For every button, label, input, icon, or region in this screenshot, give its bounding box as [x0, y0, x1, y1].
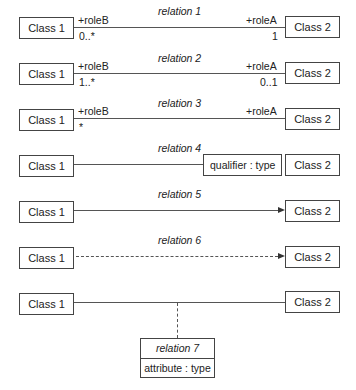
association-class-box[interactable]: relation 7 attribute : type [140, 338, 215, 378]
relation-name: relation 3 [158, 97, 201, 109]
class-2-box[interactable]: Class 2 [285, 108, 340, 130]
association-class-attribute: attribute : type [141, 359, 214, 377]
role-label-right: +roleA [246, 105, 277, 117]
class-1-box[interactable]: Class 1 [19, 155, 74, 177]
relation-name: relation 6 [158, 234, 201, 246]
association-class-connector [177, 303, 178, 338]
multiplicity-left: 0..* [79, 30, 95, 42]
association-line [74, 73, 285, 74]
role-label-right: +roleA [246, 14, 277, 26]
relation-name: relation 2 [158, 52, 201, 64]
class-2-box[interactable]: Class 2 [285, 200, 340, 222]
relation-name: relation 1 [158, 5, 201, 17]
class-2-box[interactable]: Class 2 [285, 154, 340, 176]
dependency-line [76, 256, 278, 257]
class-1-box[interactable]: Class 1 [19, 201, 74, 223]
association-line [74, 302, 285, 303]
role-label-right: +roleA [246, 60, 277, 72]
class-2-box[interactable]: Class 2 [285, 16, 340, 38]
class-2-box[interactable]: Class 2 [285, 62, 340, 84]
association-class-name: relation 7 [141, 339, 214, 359]
qualifier-box[interactable]: qualifier : type [203, 154, 282, 176]
association-line [74, 27, 285, 28]
multiplicity-left: * [79, 121, 83, 133]
association-line [74, 118, 285, 119]
role-label-left: +roleB [78, 14, 109, 26]
class-1-box[interactable]: Class 1 [19, 109, 74, 131]
relation-name: relation 5 [158, 188, 201, 200]
class-1-box[interactable]: Class 1 [19, 63, 74, 85]
multiplicity-right: 0..1 [260, 76, 278, 88]
class-1-box[interactable]: Class 1 [19, 247, 74, 269]
association-line [74, 164, 204, 165]
directed-association-line [74, 210, 278, 211]
relation-name: relation 4 [158, 142, 201, 154]
role-label-left: +roleB [78, 60, 109, 72]
class-2-box[interactable]: Class 2 [285, 291, 340, 313]
multiplicity-right: 1 [272, 30, 278, 42]
arrowhead-icon [278, 207, 285, 213]
class-1-box[interactable]: Class 1 [19, 17, 74, 39]
role-label-left: +roleB [78, 105, 109, 117]
multiplicity-left: 1..* [79, 76, 95, 88]
class-1-box[interactable]: Class 1 [19, 293, 74, 315]
class-2-box[interactable]: Class 2 [285, 246, 340, 268]
arrowhead-icon [278, 253, 285, 259]
